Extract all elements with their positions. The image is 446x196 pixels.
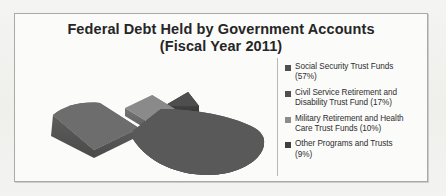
pie-chart-3d [21, 64, 273, 180]
legend-swatch-icon [285, 142, 291, 148]
chart-frame: Federal Debt Held by Government Accounts… [14, 13, 428, 182]
legend-label-line-1: Civil Service Retirement and [295, 88, 397, 97]
legend-label-line-2: Care Trust Funds (10%) [295, 124, 381, 133]
chart-title-line-1: Federal Debt Held by Government Accounts [67, 21, 374, 37]
legend-label-line-2: Disability Trust Fund (17%) [295, 98, 392, 107]
legend-label-line-2: (57%) [295, 72, 317, 81]
legend-swatch-icon [285, 65, 291, 71]
legend-label-line-2: (9%) [295, 150, 312, 159]
legend-item-label: Military Retirement and Health Care Trus… [295, 114, 404, 135]
legend-item-label: Other Programs and Trusts (9%) [295, 139, 393, 160]
pie-chart-plot-area [21, 64, 273, 180]
legend-item-other-programs-and-trusts[interactable]: Other Programs and Trusts (9%) [285, 139, 427, 160]
legend-item-civil-service-retirement-and-disability-trust-fund[interactable]: Civil Service Retirement and Disability … [285, 88, 427, 109]
legend-swatch-icon [285, 91, 291, 97]
legend-swatch-icon [285, 117, 291, 123]
legend-item-social-security-trust-funds[interactable]: Social Security Trust Funds (57%) [285, 62, 427, 83]
legend-item-label: Social Security Trust Funds (57%) [295, 62, 393, 83]
legend-label-line-1: Military Retirement and Health [295, 114, 404, 123]
chart-title: Federal Debt Held by Government Accounts… [15, 21, 427, 55]
legend-divider [277, 58, 278, 176]
legend-label-line-1: Other Programs and Trusts [295, 139, 393, 148]
pie-slice-social-security-trust-funds[interactable] [133, 109, 264, 175]
legend-item-military-retirement-and-health-care-trust-funds[interactable]: Military Retirement and Health Care Trus… [285, 114, 427, 135]
legend-item-label: Civil Service Retirement and Disability … [295, 88, 397, 109]
legend-label-line-1: Social Security Trust Funds [295, 62, 393, 71]
chart-legend: Social Security Trust Funds (57%) Civil … [285, 62, 427, 165]
chart-title-line-2: (Fiscal Year 2011) [15, 38, 427, 55]
